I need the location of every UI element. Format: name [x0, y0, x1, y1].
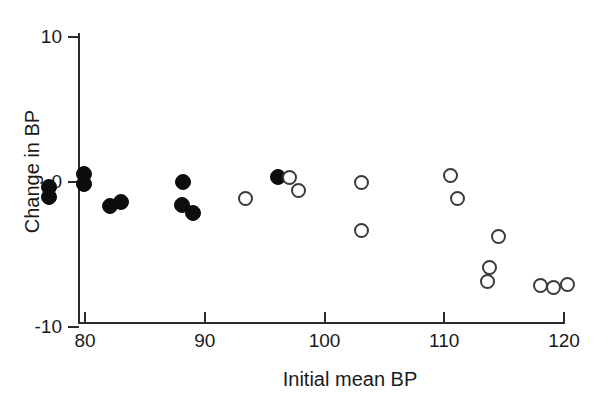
- data-point: [282, 170, 297, 185]
- data-point: [354, 175, 369, 190]
- plot-data-area: [0, 0, 608, 405]
- scatter-plot-figure: 8090100110120-10010 Change in BP Initial…: [0, 0, 608, 405]
- data-point: [480, 274, 495, 289]
- data-point: [175, 174, 191, 190]
- data-point: [560, 277, 575, 292]
- data-point: [354, 223, 369, 238]
- data-point: [491, 229, 506, 244]
- data-point: [41, 189, 57, 205]
- data-point: [113, 194, 129, 210]
- data-point: [443, 168, 458, 183]
- data-point: [76, 176, 92, 192]
- data-point: [546, 280, 561, 295]
- data-point: [482, 260, 497, 275]
- data-point: [450, 191, 465, 206]
- data-point: [291, 183, 306, 198]
- data-point: [238, 191, 253, 206]
- data-point: [185, 205, 201, 221]
